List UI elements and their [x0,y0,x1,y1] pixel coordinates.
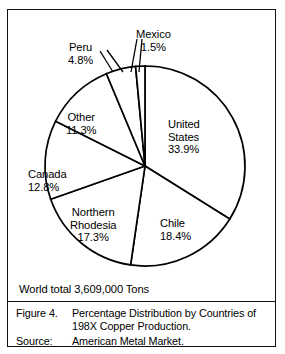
caption-figure-label: Figure 4. [16,307,72,320]
pie-chart-svg [8,10,277,301]
caption-source-row: Source: American Metal Market. [16,335,267,348]
pie-label-northern-rhodesia-name: Northern [70,206,116,219]
pie-label-chile: Chile 18.4% [160,217,191,242]
leader-line-peru-2 [107,50,123,72]
pie-label-mexico-name: Mexico [136,28,171,41]
pie-label-other: Other 11.3% [66,111,96,136]
pie-label-other-pct: 11.3% [66,124,96,137]
pie-label-united-states-name: United [168,118,200,131]
pie-label-peru-pct: 4.8% [68,54,93,67]
pie-label-northern-rhodesia: Northern Rhodesia 17.3% [70,206,116,244]
pie-label-mexico-pct: 1.5% [136,41,171,54]
pie-chart-area: United States 33.9% Chile 18.4% Northern… [8,10,275,301]
pie-label-northern-rhodesia-name2: Rhodesia [70,219,116,232]
leader-line-peru [100,51,113,72]
pie-label-canada-pct: 12.8% [28,181,67,194]
pie-label-mexico: Mexico 1.5% [136,28,171,53]
caption-title-line1: Percentage Distribution by Countries of [72,307,256,320]
caption-source-label: Source: [16,335,72,348]
pie-label-canada: Canada 12.8% [28,168,67,193]
pie-label-other-name: Other [66,111,96,124]
figure-caption: Figure 4. Percentage Distribution by Cou… [8,301,275,348]
pie-label-peru: Peru 4.8% [68,41,93,66]
figure-frame: United States 33.9% Chile 18.4% Northern… [7,9,276,347]
caption-source-value: American Metal Market. [72,335,184,348]
pie-label-northern-rhodesia-pct: 17.3% [70,231,116,244]
pie-label-united-states: United States 33.9% [168,118,200,156]
pie-label-chile-pct: 18.4% [160,230,191,243]
caption-title-line2: 198X Copper Production. [16,320,267,333]
caption-title-row: Figure 4. Percentage Distribution by Cou… [16,307,267,320]
pie-label-chile-name: Chile [160,217,191,230]
world-total-text: World total 3,609,000 Tons [19,283,149,295]
pie-label-canada-name: Canada [28,168,67,181]
pie-label-peru-name: Peru [68,41,93,54]
pie-label-united-states-name2: States [168,131,200,144]
pie-label-united-states-pct: 33.9% [168,143,200,156]
